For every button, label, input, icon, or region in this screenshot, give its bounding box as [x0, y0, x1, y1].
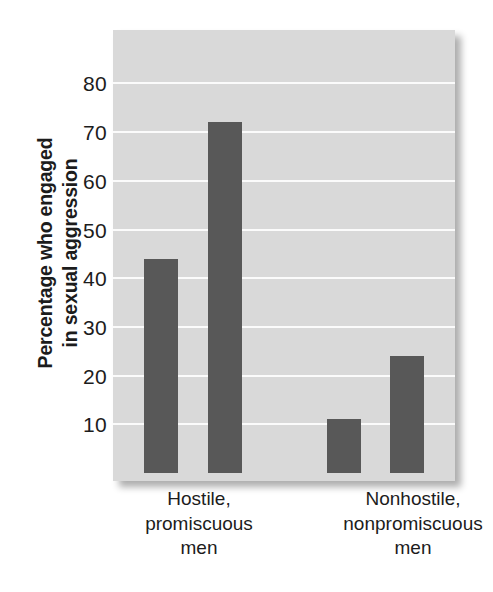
x-axis-label-line: Nonhostile,: [283, 487, 493, 512]
y-tick-label-40: 40: [61, 268, 107, 289]
gridline-60: [113, 180, 455, 182]
y-tick-label-30: 30: [61, 317, 107, 338]
bar-chart-figure: Percentage who engaged in sexual aggress…: [0, 0, 493, 592]
x-axis-category-labels: Hostile,promiscuousmen Nonhostile,nonpro…: [113, 487, 455, 587]
y-tick-label-70: 70: [61, 122, 107, 143]
y-tick-label-10: 10: [61, 414, 107, 435]
bar-0: [144, 259, 178, 473]
bar-1: [208, 122, 242, 473]
y-tick-label-50: 50: [61, 220, 107, 241]
bar-3: [390, 356, 424, 473]
bar-2: [327, 419, 361, 473]
x-axis-label-line: men: [283, 536, 493, 561]
y-tick-label-20: 20: [61, 366, 107, 387]
x-axis-label-line: nonpromiscuous: [283, 512, 493, 537]
y-axis-tick-labels: 1020304050607080: [53, 30, 107, 481]
y-tick-label-60: 60: [61, 171, 107, 192]
x-axis-label-nonhostile-nonpromiscuous-men: Nonhostile,nonpromiscuousmen: [283, 487, 493, 561]
gridline-50: [113, 229, 455, 231]
plot-area: [113, 30, 455, 481]
y-tick-label-80: 80: [61, 73, 107, 94]
gridline-70: [113, 131, 455, 133]
gridline-80: [113, 82, 455, 84]
